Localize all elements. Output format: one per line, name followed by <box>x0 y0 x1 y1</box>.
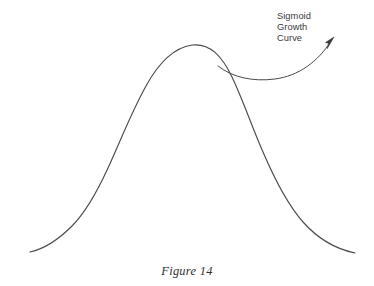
figure-root: Sigmoid Growth Curve Figure 14 <box>0 0 374 286</box>
annotation-label-line-3: Curve <box>277 33 311 44</box>
annotation-label: Sigmoid Growth Curve <box>277 11 311 45</box>
annotation-label-line-1: Sigmoid <box>277 11 311 22</box>
growth-curve-path <box>30 45 355 253</box>
leader-line-path <box>218 41 331 80</box>
annotation-label-line-2: Growth <box>277 22 311 33</box>
figure-caption: Figure 14 <box>0 264 374 279</box>
figure-drawing-canvas <box>0 0 374 286</box>
